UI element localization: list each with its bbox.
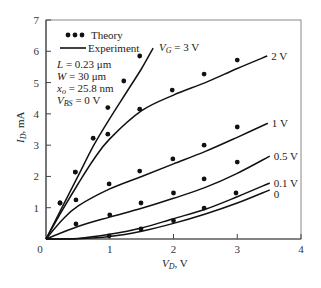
theory-point xyxy=(74,222,79,227)
theory-point xyxy=(171,218,176,223)
curve-label: 0.5 V xyxy=(274,150,298,162)
theory-point xyxy=(107,213,112,218)
theory-point xyxy=(139,227,144,232)
curve-label: 1 V xyxy=(272,117,288,129)
theory-point xyxy=(202,72,207,77)
x-tick-label: 3 xyxy=(235,243,241,255)
legend: Theory Experiment xyxy=(60,29,139,54)
device-parameters: L = 0.23 μm W = 30 μm xo = 25.8 nm VBS =… xyxy=(56,58,114,108)
theory-point xyxy=(202,143,207,148)
curve-label: 0 xyxy=(274,188,280,200)
legend-theory-label: Theory xyxy=(91,29,123,41)
y-tick-label: 6 xyxy=(34,45,40,57)
theory-point xyxy=(105,105,110,110)
id-vd-chart: 012341234567 VG = 3 V2 V1 V0.5 V0.1 V0 T… xyxy=(0,0,321,288)
theory-point xyxy=(107,233,112,238)
legend-experiment-label: Experiment xyxy=(88,42,139,54)
theory-point xyxy=(137,54,142,59)
x-tick-label: 4 xyxy=(298,243,304,255)
theory-point xyxy=(170,157,175,162)
theory-point xyxy=(73,170,78,175)
y-tick-label: 1 xyxy=(34,202,40,214)
param-L: L = 0.23 μm xyxy=(56,58,112,70)
theory-point xyxy=(234,191,239,196)
y-tick-label: 5 xyxy=(34,77,40,89)
legend-theory-marker xyxy=(66,33,85,38)
x-axis-label: VD, V xyxy=(162,257,188,271)
x-tick-label: 0 xyxy=(37,243,43,255)
theory-point xyxy=(139,201,144,206)
theory-point xyxy=(171,191,176,196)
theory-point xyxy=(202,177,207,182)
theory-point xyxy=(105,132,110,137)
y-tick-label: 2 xyxy=(34,170,40,182)
theory-point xyxy=(235,58,240,63)
y-tick-label: 3 xyxy=(34,139,40,151)
theory-point xyxy=(74,197,79,202)
y-tick-label: 7 xyxy=(34,14,40,26)
param-W: W = 30 μm xyxy=(57,70,107,82)
theory-point xyxy=(107,182,112,187)
theory-point xyxy=(121,79,126,84)
y-axis-label: ID, mA xyxy=(14,111,28,144)
theory-point xyxy=(235,160,240,165)
y-tick-label: 4 xyxy=(34,108,40,120)
curve-label: VG = 3 V xyxy=(159,41,199,55)
param-VBS: VBS = 0 V xyxy=(57,94,100,108)
theory-point xyxy=(137,169,142,174)
theory-point xyxy=(170,88,175,93)
theory-point xyxy=(235,125,240,130)
theory-point xyxy=(137,107,142,112)
x-tick-label: 2 xyxy=(171,243,177,255)
curve-label: 2 V xyxy=(271,50,287,62)
x-tick-label: 1 xyxy=(107,243,113,255)
theory-point xyxy=(91,136,96,141)
theory-point xyxy=(202,206,207,211)
curve-labels: VG = 3 V2 V1 V0.5 V0.1 V0 xyxy=(159,41,298,200)
theory-point xyxy=(58,201,63,206)
